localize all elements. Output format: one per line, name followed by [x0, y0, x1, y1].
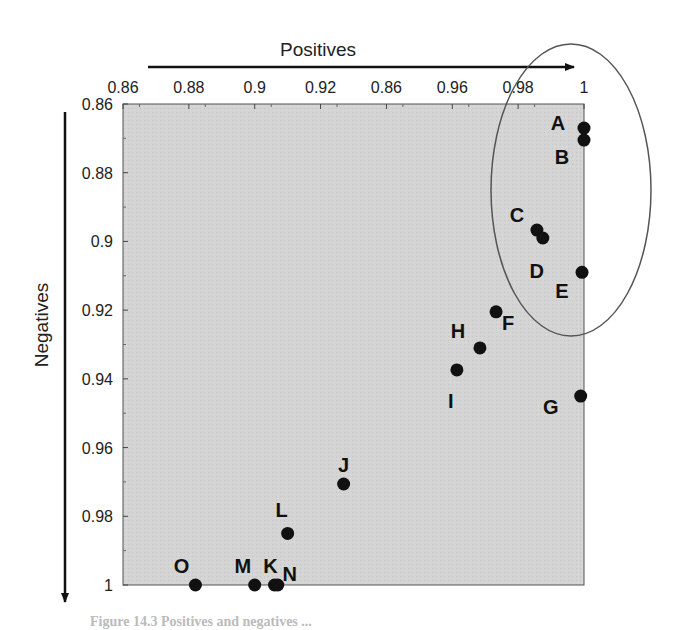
point-label: O — [174, 555, 190, 577]
y-tick-label: 0.98 — [82, 508, 113, 525]
point-marker — [189, 579, 202, 592]
point-marker — [576, 266, 589, 279]
x-tick-label: 0.86 — [371, 79, 402, 96]
x-tick-label: 0.9 — [244, 79, 266, 96]
y-axis-title: Negatives — [31, 283, 52, 368]
point-marker — [248, 579, 261, 592]
point-marker — [337, 477, 350, 490]
x-tick-label: 0.86 — [107, 79, 138, 96]
x-tick-label: 1 — [580, 79, 589, 96]
y-tick-label: 0.92 — [82, 302, 113, 319]
point-marker — [536, 231, 549, 244]
point-marker — [578, 134, 591, 147]
point-label: H — [451, 320, 465, 342]
figure-caption: Figure 14.3 Positives and negatives ... — [90, 614, 312, 630]
y-tick-label: 0.9 — [91, 233, 113, 250]
point-label: E — [555, 280, 568, 302]
point-label: A — [551, 112, 565, 134]
point-label: K — [263, 555, 278, 577]
x-tick-label: 0.92 — [305, 79, 336, 96]
y-tick-label: 1 — [104, 577, 113, 594]
point-label: D — [530, 260, 544, 282]
y-tick-label: 0.96 — [82, 440, 113, 457]
y-tick-label: 0.88 — [82, 165, 113, 182]
x-tick-label: 0.88 — [173, 79, 204, 96]
point-label: G — [543, 396, 559, 418]
point-label: L — [276, 499, 288, 521]
x-axis-title: Positives — [280, 39, 356, 60]
y-tick-label: 0.86 — [82, 96, 113, 113]
y-tick-label: 0.94 — [82, 371, 113, 388]
point-label: C — [510, 204, 524, 226]
point-marker — [574, 390, 587, 403]
data-point-j: J — [337, 454, 350, 491]
point-label: M — [234, 555, 251, 577]
x-tick-label: 0.96 — [437, 79, 468, 96]
point-marker — [490, 305, 503, 318]
point-label: I — [448, 390, 454, 412]
point-marker — [578, 122, 591, 135]
x-tick-labels: 0.860.880.90.920.860.960.981 — [107, 79, 588, 96]
point-marker — [450, 363, 463, 376]
plot-area — [123, 104, 584, 585]
y-tick-labels: 0.860.880.90.920.940.960.981 — [82, 96, 113, 594]
point-label: J — [338, 454, 349, 476]
point-label: N — [283, 563, 297, 585]
point-marker — [281, 527, 294, 540]
point-label: F — [502, 312, 514, 334]
point-label: B — [555, 146, 569, 168]
point-marker — [473, 341, 486, 354]
